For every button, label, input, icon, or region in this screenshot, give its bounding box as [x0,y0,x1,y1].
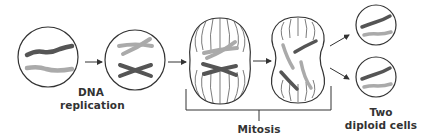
metaphase-cell [190,18,251,104]
arrow-icon [330,68,349,79]
two-diploid-line2: diploid cells [340,119,422,132]
mitosis-text: Mitosis [228,123,290,136]
chromosome-light [364,32,391,35]
dna-replication-line2: replication [60,99,122,112]
replicated-cell [105,30,165,90]
dna-replication-line1: DNA [60,86,122,99]
anaphase-cell [272,17,325,103]
two-diploid-line1: Two [340,106,422,119]
daughter-cell-top [356,5,396,45]
arrow-icon [330,35,349,46]
mitosis-label: Mitosis [228,123,290,136]
two-diploid-cells-label: Two diploid cells [340,106,422,132]
chromosome-light [364,84,391,87]
daughter-cell-bottom [356,57,396,97]
dna-replication-label: DNA replication [60,86,122,112]
parent-cell [18,27,78,87]
